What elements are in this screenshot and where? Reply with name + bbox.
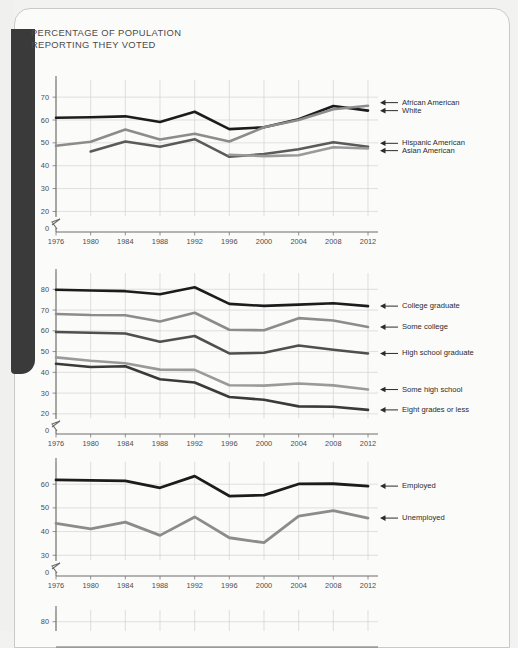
legend-arrow-icon — [380, 407, 386, 413]
x-tick-label: 1996 — [221, 439, 237, 448]
series-line-some-college — [56, 313, 368, 330]
x-tick-label: 2004 — [290, 237, 306, 246]
legend-arrow-icon — [380, 148, 386, 154]
x-tick-label: 2008 — [325, 439, 341, 448]
y-tick-label: 30 — [41, 551, 49, 560]
x-tick-label: 1996 — [221, 237, 237, 246]
legend-arrow-icon — [380, 483, 386, 489]
x-tick-label: 1984 — [117, 237, 133, 246]
x-tick-label: 1976 — [48, 237, 64, 246]
y-tick-label: 60 — [41, 116, 49, 125]
y-tick-label: 30 — [41, 389, 49, 398]
y-tick-label: 80 — [41, 285, 49, 294]
x-tick-label: 2000 — [256, 581, 272, 590]
y-tick-label: 0 — [45, 568, 49, 577]
x-tick-label: 2012 — [360, 237, 376, 246]
legend-label: Unemployed — [402, 513, 445, 522]
legend-label: Some high school — [402, 385, 463, 394]
x-tick-label: 1992 — [186, 581, 202, 590]
x-tick-label: 2012 — [360, 581, 376, 590]
x-tick-label: 2004 — [290, 439, 306, 448]
legend-label: White — [402, 106, 421, 115]
chart-employment: 0304050601976198019841988199219962000200… — [0, 455, 518, 595]
legend-arrow-icon — [380, 141, 386, 147]
y-tick-label: 20 — [41, 207, 49, 216]
x-tick-label: 2008 — [325, 237, 341, 246]
x-tick-label: 1988 — [152, 237, 168, 246]
legend-label: Asian American — [402, 146, 455, 155]
x-tick-label: 2012 — [360, 439, 376, 448]
legend-arrow-icon — [380, 108, 386, 114]
legend-label: Some college — [402, 322, 448, 331]
x-tick-label: 1984 — [117, 439, 133, 448]
x-tick-label: 1980 — [82, 439, 98, 448]
legend-arrow-icon — [380, 387, 386, 393]
page-title: PERCENTAGE OF POPULATION REPORTING THEY … — [31, 27, 181, 52]
series-line-employed — [56, 476, 368, 496]
y-tick-label: 70 — [41, 306, 49, 315]
legend-arrow-icon — [380, 100, 386, 106]
y-tick-label: 80 — [41, 617, 49, 626]
y-tick-label: 0 — [45, 224, 49, 233]
series-line-unemployed — [56, 511, 368, 543]
legend-label: Eight grades or less — [402, 405, 469, 414]
x-tick-label: 1988 — [152, 581, 168, 590]
x-tick-label: 1980 — [82, 581, 98, 590]
legend-arrow-icon — [380, 324, 386, 330]
legend-arrow-icon — [380, 303, 386, 309]
y-tick-label: 50 — [41, 347, 49, 356]
x-tick-label: 1988 — [152, 439, 168, 448]
x-tick-label: 1984 — [117, 581, 133, 590]
x-tick-label: 1980 — [82, 237, 98, 246]
series-line-high-school-graduate — [56, 332, 368, 353]
y-tick-label: 0 — [45, 426, 49, 435]
series-line-eight-grades-or-less — [56, 364, 368, 410]
legend-arrow-icon — [380, 515, 386, 521]
x-tick-label: 1996 — [221, 581, 237, 590]
y-tick-label: 40 — [41, 368, 49, 377]
chart-race: 0203040506070197619801984198819921996200… — [0, 60, 518, 235]
legend-label: Employed — [402, 481, 436, 490]
chart-education: 0203040506070801976198019841988199219962… — [0, 268, 518, 438]
y-tick-label: 50 — [41, 138, 49, 147]
y-tick-label: 40 — [41, 527, 49, 536]
y-tick-label: 60 — [41, 480, 49, 489]
legend-label: College graduate — [402, 301, 460, 310]
x-tick-label: 2008 — [325, 581, 341, 590]
series-line-some-high-school — [56, 357, 368, 389]
y-tick-label: 60 — [41, 326, 49, 335]
legend-label: High school graduate — [402, 348, 474, 357]
chart-partial: 80 — [0, 600, 518, 631]
x-tick-label: 1976 — [48, 439, 64, 448]
y-tick-label: 20 — [41, 409, 49, 418]
legend-arrow-icon — [380, 351, 386, 357]
x-tick-label: 1992 — [186, 439, 202, 448]
y-tick-label: 50 — [41, 503, 49, 512]
series-line-african-american — [56, 106, 368, 146]
x-tick-label: 1992 — [186, 237, 202, 246]
axis-break-mark — [52, 219, 60, 229]
axis-break-mark — [52, 563, 60, 573]
x-tick-label: 1976 — [48, 581, 64, 590]
x-tick-label: 2000 — [256, 439, 272, 448]
y-tick-label: 30 — [41, 184, 49, 193]
series-line-white — [56, 106, 368, 129]
x-tick-label: 2004 — [290, 581, 306, 590]
axis-break-mark — [52, 421, 60, 431]
y-tick-label: 70 — [41, 93, 49, 102]
y-tick-label: 40 — [41, 161, 49, 170]
x-tick-label: 2000 — [256, 237, 272, 246]
series-line-college-graduate — [56, 287, 368, 306]
